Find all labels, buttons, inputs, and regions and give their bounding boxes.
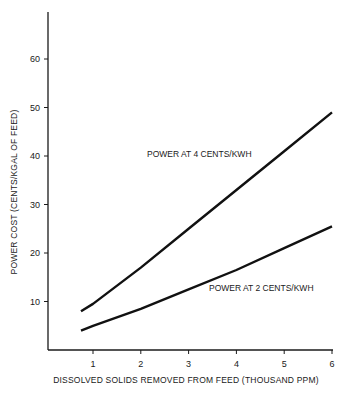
x-tick-label: 3 [186, 359, 191, 369]
x-axis-label: DISSOLVED SOLIDS REMOVED FROM FEED (THOU… [53, 375, 319, 385]
series-label-4-cents: POWER AT 4 CENTS/KWH [147, 149, 252, 159]
line-2-cents-kwh [81, 226, 332, 330]
y-tick-label: 30 [30, 200, 40, 210]
series-lines [81, 112, 332, 330]
y-tick-label: 40 [30, 151, 40, 161]
x-tick-label: 5 [282, 359, 287, 369]
x-tick-label: 4 [234, 359, 239, 369]
y-tick-label: 10 [30, 297, 40, 307]
x-tick-label: 2 [138, 359, 143, 369]
x-tick-label: 1 [90, 359, 95, 369]
y-axis-label: POWER COST (CENTS/KGAL OF FEED) [9, 110, 19, 275]
y-tick-label: 60 [30, 54, 40, 64]
series-label-2-cents: POWER AT 2 CENTS/KWH [209, 283, 314, 293]
x-tick-label: 6 [329, 359, 334, 369]
y-ticks: 102030405060 [30, 54, 48, 307]
x-ticks: 123456 [90, 350, 334, 369]
y-tick-label: 50 [30, 103, 40, 113]
chart: 102030405060 123456 POWER COST (CENTS/KG… [0, 0, 344, 396]
y-tick-label: 20 [30, 248, 40, 258]
